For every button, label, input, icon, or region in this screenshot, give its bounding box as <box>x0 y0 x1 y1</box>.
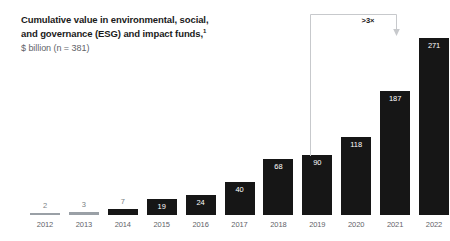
bar-value-label: 7 <box>108 197 138 206</box>
bar[interactable] <box>69 212 99 215</box>
x-axis-tick-label: 2019 <box>302 220 332 229</box>
x-axis-tick-label: 2017 <box>225 220 255 229</box>
x-axis-tick-label: 2013 <box>69 220 99 229</box>
x-axis-tick-label: 2016 <box>186 220 216 229</box>
bar-value-label: 24 <box>186 198 216 207</box>
bar-value-label: 68 <box>263 162 293 171</box>
bar-chart-plot-area: 2201232013720141920152420164020176820189… <box>0 0 450 241</box>
x-axis-tick-label: 2015 <box>147 220 177 229</box>
bar-value-label: 118 <box>341 140 371 149</box>
bar-value-label: 19 <box>147 202 177 211</box>
x-axis-tick-label: 2012 <box>30 220 60 229</box>
bar-value-label: 271 <box>419 41 449 50</box>
bar-value-label: 90 <box>302 158 332 167</box>
bar-group[interactable]: 682018 <box>263 159 293 215</box>
bar-group[interactable]: 32013 <box>69 212 99 215</box>
bar-group[interactable]: 242016 <box>186 195 216 215</box>
x-axis-tick-label: 2020 <box>341 220 371 229</box>
bar-value-label: 187 <box>380 94 410 103</box>
bar-value-label: 2 <box>30 201 60 210</box>
bar-group[interactable]: 902019 <box>302 155 332 215</box>
bar-value-label: 3 <box>69 200 99 209</box>
bar-group[interactable]: 22012 <box>30 213 60 215</box>
bar[interactable] <box>108 209 138 215</box>
bar-group[interactable]: 1182020 <box>341 137 371 215</box>
x-axis-tick-label: 2014 <box>108 220 138 229</box>
bar-group[interactable]: 72014 <box>108 209 138 215</box>
bar-group[interactable]: 2712022 <box>419 38 449 215</box>
x-axis-tick-label: 2022 <box>419 220 449 229</box>
x-axis-tick-label: 2018 <box>263 220 293 229</box>
bar-group[interactable]: 402017 <box>225 182 255 215</box>
bar[interactable] <box>419 38 449 215</box>
bar-group[interactable]: 1872021 <box>380 91 410 215</box>
x-axis-tick-label: 2021 <box>380 220 410 229</box>
bar[interactable] <box>30 213 60 215</box>
bar-group[interactable]: 192015 <box>147 199 177 215</box>
bar[interactable] <box>380 91 410 215</box>
bar-value-label: 40 <box>225 185 255 194</box>
annotation-label: >3× <box>340 16 396 25</box>
